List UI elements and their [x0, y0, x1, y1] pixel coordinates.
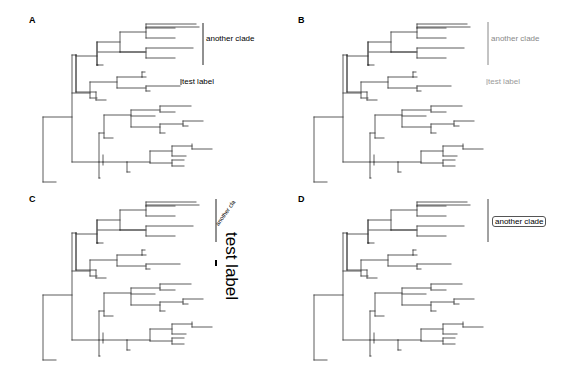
- panel-a: Aanother cladetest label: [0, 0, 282, 190]
- tip-label: test label: [182, 77, 214, 86]
- clade-label: another clade: [206, 34, 254, 43]
- tip-label: test label: [488, 77, 520, 86]
- panel-d: Danother clade: [282, 190, 564, 380]
- tip-label: test label: [223, 232, 240, 300]
- tree-branches: [314, 202, 483, 360]
- tree-branches: [43, 202, 212, 360]
- tree-branches: [314, 24, 483, 182]
- clade-label: another clade: [492, 216, 546, 227]
- panel-c: Canother clatest label: [0, 190, 282, 380]
- clade-label: another clade: [491, 34, 539, 43]
- tree-plot: [0, 0, 282, 190]
- tree-branches: [43, 24, 212, 182]
- tree-plot: [282, 0, 564, 190]
- panel-b: Banother cladetest label: [282, 0, 564, 190]
